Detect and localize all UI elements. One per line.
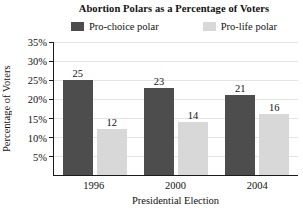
bar-value-label: 16 (269, 102, 280, 113)
y-tick-label: 20% (28, 94, 47, 105)
plot-area: 251223142116 (53, 42, 298, 176)
y-tick-mark (49, 61, 53, 62)
y-tick-label: 35% (28, 37, 47, 48)
bar-pro-choice-polar-2004 (225, 95, 255, 175)
x-tick-label-1996: 1996 (53, 180, 135, 191)
y-tick-mark (49, 80, 53, 81)
bar-holder: 12 (97, 42, 127, 175)
x-tick-label-2000: 2000 (135, 180, 217, 191)
y-tick-mark (49, 42, 53, 43)
bar-group-2004: 2116 (225, 42, 289, 175)
x-axis-tick-labels: 199620002004 (53, 180, 298, 191)
y-tick-label: 15% (28, 113, 47, 124)
y-tick-mark (49, 99, 53, 100)
bar-value-label: 14 (188, 110, 199, 121)
x-tick-label-2004: 2004 (216, 180, 298, 191)
chart-figure: Abortion Polars as a Percentage of Voter… (0, 0, 303, 211)
bar-holder: 25 (63, 42, 93, 175)
y-axis-tick-labels: 5%10%15%20%25%30%35% (14, 42, 47, 176)
bar-groups: 251223142116 (54, 42, 298, 175)
legend-item-pro-life: Pro-life polar (203, 21, 277, 32)
x-axis-title: Presidential Election (53, 195, 298, 206)
y-tick-label: 5% (33, 151, 47, 162)
y-tick-mark (49, 137, 53, 138)
bar-value-label: 21 (235, 83, 246, 94)
y-tick-label: 30% (28, 56, 47, 67)
bar-pro-choice-polar-1996 (63, 80, 93, 175)
bar-pro-life-polar-2004 (259, 114, 289, 175)
bar-value-label: 23 (154, 76, 165, 87)
bar-holder: 14 (178, 42, 208, 175)
chart-legend: Pro-choice polar Pro-life polar (50, 21, 298, 32)
y-axis-title: Percentage of Voters (1, 42, 12, 176)
legend-item-pro-choice: Pro-choice polar (71, 21, 159, 32)
y-tick-mark (49, 118, 53, 119)
bar-group-2000: 2314 (144, 42, 208, 175)
legend-label-pro-choice: Pro-choice polar (89, 21, 159, 32)
bar-value-label: 25 (72, 68, 83, 79)
bar-holder: 23 (144, 42, 174, 175)
bar-pro-life-polar-2000 (178, 122, 208, 175)
bar-pro-life-polar-1996 (97, 129, 127, 175)
bar-pro-choice-polar-2000 (144, 88, 174, 175)
bar-holder: 21 (225, 42, 255, 175)
bar-value-label: 12 (106, 117, 117, 128)
bar-holder: 16 (259, 42, 289, 175)
y-tick-mark (49, 156, 53, 157)
y-tick-label: 10% (28, 132, 47, 143)
legend-swatch-pro-choice (71, 22, 84, 31)
bar-group-1996: 2512 (63, 42, 127, 175)
legend-label-pro-life: Pro-life polar (221, 21, 277, 32)
chart-title: Abortion Polars as a Percentage of Voter… (50, 3, 298, 14)
legend-swatch-pro-life (203, 22, 216, 31)
y-tick-label: 25% (28, 75, 47, 86)
